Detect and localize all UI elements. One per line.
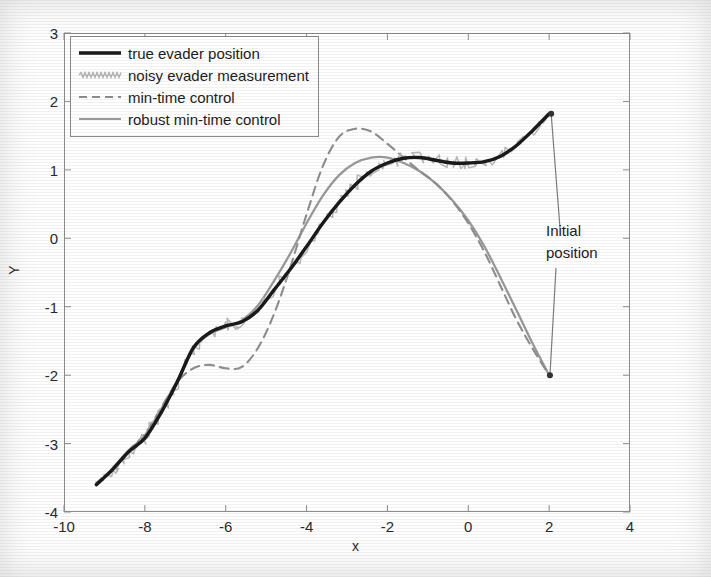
series-robust-min-time-control [96, 157, 549, 485]
x-tick-label: 2 [545, 518, 553, 535]
series-noisy-evader-measurement [96, 114, 549, 482]
legend-label: robust min-time control [128, 112, 281, 127]
legend-label: min-time control [128, 90, 235, 105]
annotation-arrow-head [548, 111, 554, 117]
legend-item-1[interactable]: noisy evader measurement [78, 64, 309, 86]
x-tick-label: -10 [53, 518, 75, 535]
legend-swatch-solid-thin-icon [78, 112, 122, 126]
legend-item-3[interactable]: robust min-time control [78, 108, 309, 130]
legend-swatch-noisy-icon [78, 68, 122, 82]
x-tick-label: 4 [626, 518, 634, 535]
annotation-line-2: position [546, 242, 598, 264]
legend[interactable]: true evader positionnoisy evader measure… [70, 36, 319, 137]
y-tick-label: -4 [28, 504, 58, 521]
legend-item-0[interactable]: true evader position [78, 42, 309, 64]
x-tick-label: -4 [300, 518, 313, 535]
legend-swatch-solid-thick-icon [78, 46, 122, 60]
annotation-leader-line [550, 268, 556, 375]
x-tick-label: -6 [219, 518, 232, 535]
x-axis-label: x [0, 538, 711, 554]
annotation-arrow-head [547, 372, 553, 378]
series-min-time-control [96, 128, 549, 484]
y-tick-label: -3 [28, 435, 58, 452]
y-tick-label: -1 [28, 298, 58, 315]
y-tick-label: 3 [28, 25, 58, 42]
y-tick-label: 1 [28, 161, 58, 178]
legend-item-2[interactable]: min-time control [78, 86, 309, 108]
legend-label: noisy evader measurement [128, 68, 309, 83]
legend-swatch-dashed-icon [78, 90, 122, 104]
y-tick-label: 0 [28, 230, 58, 247]
series-true-evader-position [96, 114, 549, 485]
series-group [96, 114, 550, 485]
figure: -10-8-6-4-2024 -4-3-2-10123 x Y true eva… [0, 0, 711, 577]
annotation-leader-line [551, 114, 560, 228]
y-tick-label: 2 [28, 93, 58, 110]
x-tick-label: 0 [464, 518, 472, 535]
x-tick-label: -2 [381, 518, 394, 535]
annotation-initial-position: Initial position [546, 220, 598, 264]
annotation-line-1: Initial [546, 220, 598, 242]
x-tick-label: -8 [138, 518, 151, 535]
y-tick-label: -2 [28, 367, 58, 384]
legend-label: true evader position [128, 46, 260, 61]
y-axis-label: Y [6, 265, 22, 274]
